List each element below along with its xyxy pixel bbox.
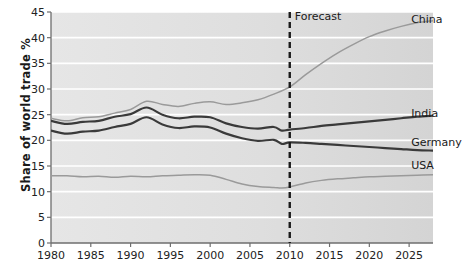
- x-tick-label: 2005: [236, 249, 264, 262]
- x-tick-label: 1995: [156, 249, 184, 262]
- x-tick-label: 1990: [117, 249, 145, 262]
- x-tick-label: 2010: [276, 249, 304, 262]
- x-axis-tick-labels: 1980198519901995200020052010201520202025: [0, 249, 441, 273]
- series-label-germany: Germany: [411, 136, 462, 149]
- x-tick-label: 2000: [196, 249, 224, 262]
- x-tick-label: 2015: [316, 249, 344, 262]
- forecast-annotation-label: Forecast: [295, 10, 342, 23]
- series-label-china: China: [411, 13, 442, 26]
- x-tick-label: 1985: [77, 249, 105, 262]
- series-label-india: India: [411, 107, 438, 120]
- x-tick-label: 2020: [355, 249, 383, 262]
- x-tick-label: 2025: [395, 249, 423, 262]
- x-tick-label: 1980: [37, 249, 65, 262]
- series-label-usa: USA: [411, 159, 434, 172]
